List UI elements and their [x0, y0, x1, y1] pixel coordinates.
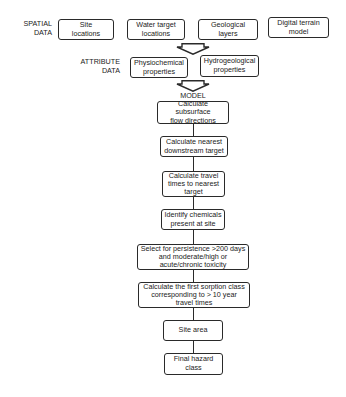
step-subsurface-flow-box: Calculate subsurface flow directions [157, 101, 229, 124]
connector-line [193, 230, 195, 244]
step-identify-chemicals-box: Identify chemicals present at site [161, 209, 225, 230]
connector-line [193, 341, 195, 353]
step-final-hazard-class-box: Final hazard class [164, 353, 223, 375]
geological-layers-box: Geological layers [198, 19, 258, 40]
hydrogeological-properties-box: Hydrogeological properties [200, 55, 259, 77]
connector-line [193, 308, 195, 320]
step-sorption-class-box: Calculate the first sorption class corre… [138, 282, 250, 308]
block-arrow-down-icon [176, 43, 210, 55]
step-select-persistence-box: Select for persistence >200 days and mod… [137, 244, 249, 270]
step-site-area-box: Site area [163, 320, 223, 341]
connector-line [193, 270, 195, 282]
step-nearest-target-box: Calculate nearest downstream target [160, 136, 228, 157]
water-target-locations-box: Water target locations [127, 19, 185, 40]
spatial-data-label: SPATIAL DATA [14, 20, 52, 37]
physiochemical-properties-box: Physiochemical properties [130, 57, 188, 78]
step-travel-times-box: Calculate travel times to nearest target [162, 171, 225, 197]
site-locations-box: Site locations [58, 19, 114, 40]
digital-terrain-model-box: Digital terrain model [268, 17, 329, 38]
connector-line [193, 197, 195, 209]
connector-line [193, 157, 195, 171]
connector-line [193, 124, 195, 136]
attribute-data-label: ATTRIBUTE DATA [70, 58, 120, 75]
